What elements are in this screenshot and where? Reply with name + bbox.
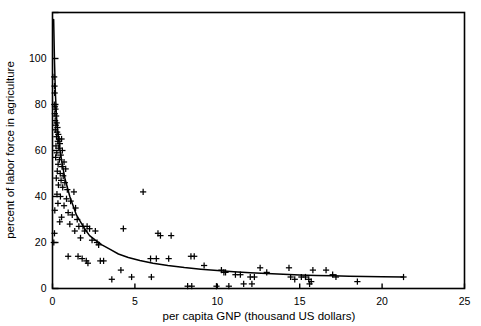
x-axis-title: per capita GNP (thousand US dollars) bbox=[163, 310, 356, 322]
x-tick-label: 25 bbox=[459, 295, 471, 307]
y-tick-label: 0 bbox=[41, 282, 47, 294]
y-tick-label: 40 bbox=[35, 190, 47, 202]
y-tick-label: 80 bbox=[35, 98, 47, 110]
x-tick-label: 0 bbox=[50, 295, 56, 307]
y-tick-label: 20 bbox=[35, 236, 47, 248]
x-tick-label: 10 bbox=[211, 295, 223, 307]
x-tick-label: 15 bbox=[294, 295, 306, 307]
scatter-plot: 0510152025 020406080100 per capita GNP (… bbox=[0, 0, 481, 326]
chart-figure: 0510152025 020406080100 per capita GNP (… bbox=[0, 0, 481, 326]
y-tick-label: 100 bbox=[29, 52, 47, 64]
x-tick-label: 5 bbox=[132, 295, 138, 307]
x-tick-label: 20 bbox=[376, 295, 388, 307]
y-tick-label: 60 bbox=[35, 144, 47, 156]
y-axis-title: percent of labor force in agriculture bbox=[4, 61, 16, 239]
